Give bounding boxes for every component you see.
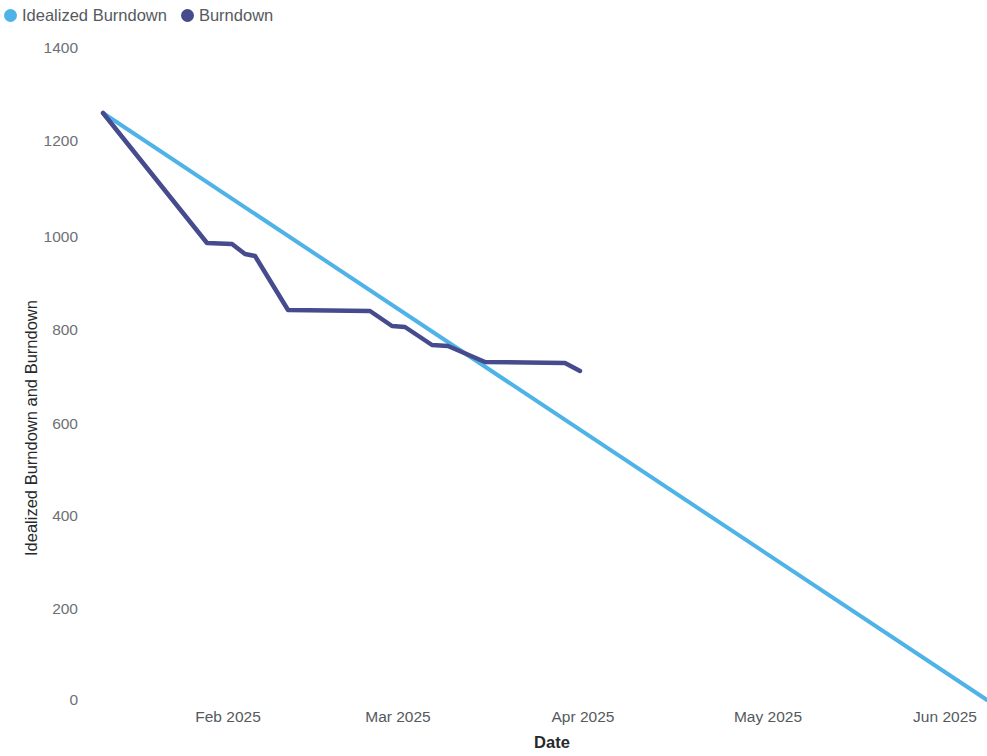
y-tick-label: 0 bbox=[8, 691, 78, 709]
y-tick-label: 200 bbox=[8, 600, 78, 618]
x-axis-title: Date bbox=[402, 733, 702, 752]
series-idealized-burndown bbox=[103, 113, 987, 700]
x-tick-label: Mar 2025 bbox=[328, 708, 468, 726]
y-tick-label: 1200 bbox=[8, 132, 78, 150]
x-tick-label: Apr 2025 bbox=[513, 708, 653, 726]
burndown-chart: Idealized Burndown Burndown 1400 1200 10… bbox=[0, 0, 987, 756]
y-axis-title: Idealized Burndown and Burndown bbox=[22, 300, 41, 556]
x-tick-label: Jun 2025 bbox=[875, 708, 987, 726]
burndown-line bbox=[103, 113, 580, 371]
y-tick-label: 800 bbox=[8, 321, 78, 339]
x-tick-label: May 2025 bbox=[698, 708, 838, 726]
y-tick-label: 400 bbox=[8, 507, 78, 525]
idealized-burndown-line bbox=[103, 113, 987, 700]
y-tick-label: 600 bbox=[8, 415, 78, 433]
y-tick-label: 1400 bbox=[8, 39, 78, 57]
plot-svg bbox=[0, 0, 987, 756]
y-tick-label: 1000 bbox=[8, 228, 78, 246]
series-burndown bbox=[103, 113, 580, 371]
x-tick-label: Feb 2025 bbox=[158, 708, 298, 726]
plot-area bbox=[0, 0, 987, 756]
